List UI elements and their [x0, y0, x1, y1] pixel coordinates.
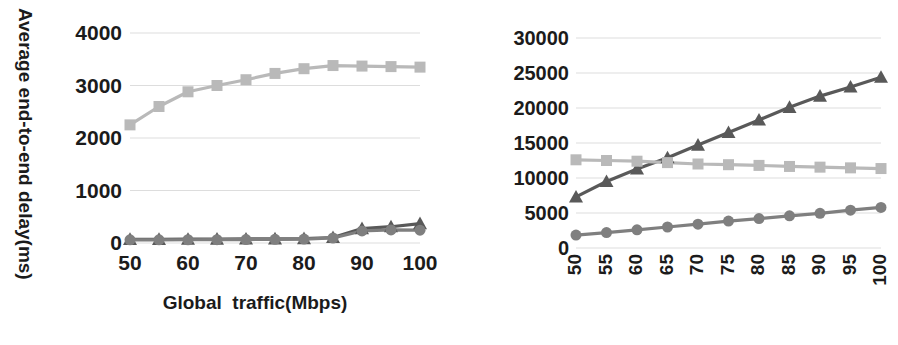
y-tick-label: 0: [60, 232, 122, 253]
data-point-marker: [601, 227, 612, 238]
x-axis-title-left: Global traffic(Mbps): [90, 292, 420, 314]
data-point-marker: [693, 159, 704, 170]
data-point-marker: [662, 222, 673, 233]
data-point-marker: [357, 225, 368, 236]
data-point-marker: [415, 62, 426, 73]
plot-area-left: [130, 33, 420, 243]
x-tick-label: 90: [809, 254, 831, 275]
plot-area-right: [576, 38, 881, 248]
y-axis-title-left: Average end-to-end delay(ms): [14, 8, 36, 308]
plot-svg-left: [130, 33, 420, 243]
y-tick-label: 5000: [487, 203, 569, 223]
x-tick-label: 70: [224, 252, 268, 273]
x-axis-tick-labels-right: 50556065707580859095100: [576, 254, 881, 300]
data-point-marker: [212, 234, 223, 245]
x-tick-label: 90: [340, 252, 384, 273]
data-point-marker: [328, 233, 339, 244]
data-point-marker: [270, 68, 281, 79]
data-point-marker: [784, 161, 795, 172]
data-point-marker: [754, 213, 765, 224]
x-tick-label: 95: [840, 254, 862, 275]
data-point-marker: [386, 224, 397, 235]
x-tick-label: 60: [166, 252, 210, 273]
series-markers-square: [571, 154, 887, 174]
data-point-marker: [571, 230, 582, 241]
data-point-marker: [876, 163, 887, 174]
data-point-marker: [328, 60, 339, 71]
data-point-marker: [125, 234, 136, 245]
data-point-marker: [815, 162, 826, 173]
y-tick-label: 10000: [487, 168, 569, 188]
y-tick-label: 20000: [487, 98, 569, 118]
chart-panel-right: Average throughput(Mbps) 050001000015000…: [449, 0, 898, 345]
data-point-marker: [357, 61, 368, 72]
y-tick-label: 0: [487, 238, 569, 258]
chart-panel-left: Average end-to-end delay(ms) 01000200030…: [0, 0, 449, 345]
data-point-marker: [601, 155, 612, 166]
data-point-marker: [874, 70, 888, 83]
y-tick-label: 1000: [60, 180, 122, 201]
data-point-marker: [183, 86, 194, 97]
x-axis-tick-labels-left: 5060708090100: [130, 252, 420, 282]
x-tick-label: 80: [748, 254, 770, 275]
x-tick-label: 60: [626, 254, 648, 275]
y-tick-label: 4000: [60, 22, 122, 43]
x-tick-label: 100: [398, 252, 442, 273]
data-point-marker: [183, 234, 194, 245]
x-tick-label: 65: [657, 254, 679, 275]
data-point-marker: [876, 202, 887, 213]
x-tick-label: 50: [108, 252, 152, 273]
data-point-marker: [632, 156, 643, 167]
y-tick-label: 15000: [487, 133, 569, 153]
x-tick-label: 70: [687, 254, 709, 275]
data-point-marker: [815, 208, 826, 219]
data-point-marker: [784, 210, 795, 221]
data-point-marker: [845, 205, 856, 216]
y-tick-label: 25000: [487, 63, 569, 83]
data-point-marker: [241, 234, 252, 245]
data-point-marker: [571, 154, 582, 165]
x-tick-label: 55: [596, 254, 618, 275]
y-tick-label: 3000: [60, 75, 122, 96]
data-point-marker: [662, 157, 673, 168]
two-panel-line-chart-figure: Average end-to-end delay(ms) 01000200030…: [0, 0, 898, 345]
x-tick-label: 75: [718, 254, 740, 275]
x-tick-label: 85: [779, 254, 801, 275]
y-tick-label: 30000: [487, 28, 569, 48]
data-point-marker: [154, 234, 165, 245]
data-point-marker: [299, 63, 310, 74]
data-point-marker: [386, 61, 397, 72]
x-tick-label: 100: [870, 254, 892, 286]
data-point-marker: [125, 119, 136, 130]
data-point-marker: [212, 80, 223, 91]
series-markers-square: [125, 60, 426, 130]
data-point-marker: [154, 101, 165, 112]
data-point-marker: [241, 74, 252, 85]
data-point-marker: [845, 162, 856, 173]
data-point-marker: [270, 234, 281, 245]
data-point-marker: [299, 234, 310, 245]
series-markers-circle: [571, 202, 887, 241]
data-point-marker: [632, 224, 643, 235]
data-point-marker: [693, 219, 704, 230]
data-point-marker: [723, 216, 734, 227]
x-tick-label: 50: [565, 254, 587, 275]
data-point-marker: [723, 159, 734, 170]
data-point-marker: [754, 160, 765, 171]
data-point-marker: [415, 225, 426, 236]
x-tick-label: 80: [282, 252, 326, 273]
y-tick-label: 2000: [60, 127, 122, 148]
plot-svg-right: [576, 38, 881, 248]
